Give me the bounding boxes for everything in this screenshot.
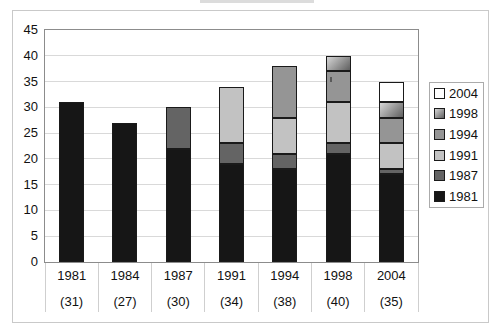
x-category-label: 1984 (98, 268, 151, 283)
bar-segment-1994 (326, 71, 351, 102)
bar-column-1998 (326, 56, 351, 262)
bar-segment-1991 (379, 143, 404, 169)
bar-segment-1987 (326, 143, 351, 153)
bar-segment-1991 (326, 102, 351, 143)
x-category-label: 1991 (205, 268, 258, 283)
x-category-label: 1981 (45, 268, 98, 283)
x-category-label: 1987 (152, 268, 205, 283)
x-category-total: (35) (365, 294, 418, 309)
y-tick-label: 35 (0, 74, 38, 90)
x-category-total: (31) (45, 294, 98, 309)
legend-entry-2004: 2004 (430, 83, 483, 104)
x-category-total: (34) (205, 294, 258, 309)
bar-segment-1981 (112, 123, 137, 262)
y-tick-label: 45 (0, 22, 38, 38)
legend-entry-label: 1981 (449, 189, 478, 204)
y-tick-label: 30 (0, 99, 38, 115)
x-category-total: (38) (258, 294, 311, 309)
legend-entry-label: 1998 (449, 106, 478, 121)
bar-segment-1994 (272, 66, 297, 118)
clipped-title-fragment (200, 0, 314, 3)
x-category-label: 2004 (365, 268, 418, 283)
bar-segment-1987 (219, 143, 244, 164)
y-tick-label: 40 (0, 48, 38, 64)
legend-entry-1991: 1991 (430, 145, 483, 166)
legend-swatch-2004 (434, 88, 445, 99)
plot-area (44, 29, 419, 263)
x-category-total: (27) (98, 294, 151, 309)
x-category-total: (30) (152, 294, 205, 309)
legend-entry-1998: 1998 (430, 104, 483, 125)
bar-column-1994 (272, 66, 297, 262)
bar-column-1991 (219, 87, 244, 262)
x-category-label: 1998 (311, 268, 364, 283)
x-category-total: (40) (311, 294, 364, 309)
bar-column-1984 (112, 123, 137, 262)
legend-swatch-1991 (434, 150, 445, 161)
bar-segment-2004 (379, 82, 404, 103)
bar-segment-1991 (272, 118, 297, 154)
bar-segment-1981 (219, 164, 244, 262)
legend-swatch-1998 (434, 108, 445, 119)
bar-segment-1981 (59, 102, 84, 262)
scan-artifact-speck (330, 77, 332, 82)
legend-entry-label: 1994 (449, 127, 478, 142)
bar-column-2004 (379, 82, 404, 262)
bar-segment-1994 (379, 118, 404, 144)
legend-swatch-1987 (434, 170, 445, 181)
gridline (45, 55, 418, 56)
bar-segment-1981 (326, 154, 351, 262)
bar-column-1981 (59, 102, 84, 262)
bar-segment-1981 (166, 149, 191, 262)
legend-entry-1987: 1987 (430, 165, 483, 186)
bar-segment-1981 (272, 169, 297, 262)
legend-box: 200419981994199119871981 (429, 82, 484, 208)
bar-segment-1987 (272, 154, 297, 169)
legend-swatch-1981 (434, 191, 445, 202)
stacked-bar-chart: 051015202530354045 1981(31)1984(27)1987(… (0, 0, 496, 330)
bar-segment-1981 (379, 174, 404, 262)
y-tick-label: 5 (0, 228, 38, 244)
gridline (45, 81, 418, 82)
legend-entry-label: 1991 (449, 148, 478, 163)
bar-segment-1998 (326, 56, 351, 71)
bar-segment-1987 (166, 107, 191, 148)
legend-entry-label: 2004 (449, 86, 478, 101)
legend-entry-1981: 1981 (430, 186, 483, 207)
y-tick-label: 10 (0, 202, 38, 218)
legend-entry-1994: 1994 (430, 124, 483, 145)
y-tick-label: 0 (0, 254, 38, 270)
y-tick-label: 15 (0, 177, 38, 193)
bar-column-1987 (166, 107, 191, 262)
bar-segment-1998 (379, 102, 404, 117)
y-tick-label: 20 (0, 151, 38, 167)
legend-swatch-1994 (434, 129, 445, 140)
legend-entry-label: 1987 (449, 168, 478, 183)
y-tick-label: 25 (0, 125, 38, 141)
bar-segment-1991 (219, 87, 244, 144)
x-category-label: 1994 (258, 268, 311, 283)
